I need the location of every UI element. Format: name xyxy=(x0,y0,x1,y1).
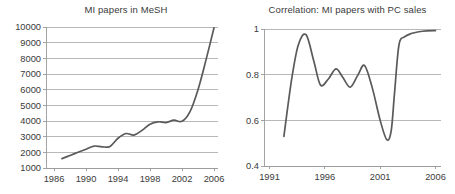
x-tick-label: 1994 xyxy=(108,174,129,184)
y-tick-label: 3000 xyxy=(20,132,41,142)
y-tick-label: 10000 xyxy=(15,22,41,32)
y-tick-label: 7000 xyxy=(20,69,41,79)
x-tick-label: 2006 xyxy=(425,172,446,182)
data-series-line xyxy=(284,31,436,141)
plot-area-left: 1000200030004000500060007000800090001000… xyxy=(0,0,228,194)
data-series-line xyxy=(62,28,214,159)
figure-two-line-charts: MI papers in MeSH 1000200030004000500060… xyxy=(0,0,455,194)
plot-area-right: 0.40.60.811991199620012006 xyxy=(228,0,455,194)
x-tick-label: 1996 xyxy=(315,172,336,182)
y-tick-label: 1 xyxy=(254,24,259,34)
x-tick-label: 1986 xyxy=(44,174,65,184)
y-tick-label: 2000 xyxy=(20,148,41,158)
x-tick-label: 2002 xyxy=(172,174,193,184)
y-tick-label: 6000 xyxy=(20,85,41,95)
y-tick-label: 0.4 xyxy=(246,161,259,171)
x-tick-label: 1998 xyxy=(140,174,161,184)
chart-panel-correlation: Correlation: MI papers with PC sales 0.4… xyxy=(228,0,455,194)
x-tick-label: 1991 xyxy=(259,172,280,182)
y-tick-label: 0.8 xyxy=(246,70,259,80)
x-tick-label: 2001 xyxy=(370,172,391,182)
x-tick-label: 1990 xyxy=(76,174,97,184)
y-tick-label: 9000 xyxy=(20,38,41,48)
chart-panel-mi-papers: MI papers in MeSH 1000200030004000500060… xyxy=(0,0,228,194)
y-tick-label: 5000 xyxy=(20,101,41,111)
y-tick-label: 4000 xyxy=(20,116,41,126)
y-tick-label: 8000 xyxy=(20,54,41,64)
y-tick-label: 1000 xyxy=(20,163,41,173)
x-tick-label: 2006 xyxy=(204,174,225,184)
y-tick-label: 0.6 xyxy=(246,116,259,126)
